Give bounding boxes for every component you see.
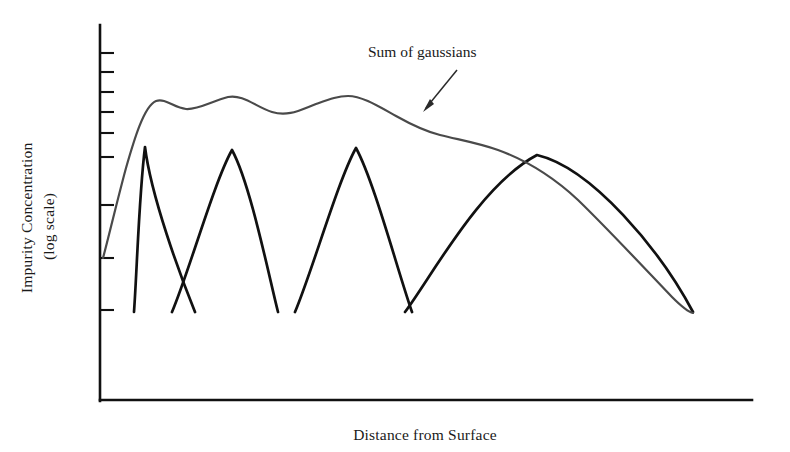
sum-of-gaussians-annotation: Sum of gaussians <box>368 43 477 112</box>
gaussian-components <box>134 147 693 312</box>
y-axis-title-line-1: Impurity Concentration <box>18 143 35 293</box>
x-axis-title: Distance from Surface <box>353 426 497 443</box>
gaussian-curve-1 <box>134 147 195 312</box>
gaussian-curve-3 <box>295 148 412 312</box>
y-axis-title: Impurity Concentration (log scale) <box>18 143 58 293</box>
sum-of-gaussians-curve <box>103 96 693 313</box>
annotation-label: Sum of gaussians <box>368 43 477 60</box>
chart-axes <box>100 25 752 401</box>
gaussian-curve-4 <box>405 155 693 312</box>
impurity-concentration-chart: Sum of gaussians Impurity Concentration … <box>0 0 790 452</box>
sum-curve-group <box>103 96 693 313</box>
y-axis-ticks <box>100 53 114 310</box>
gaussian-curve-2 <box>172 150 278 312</box>
y-axis-title-line-2: (log scale) <box>40 193 58 260</box>
